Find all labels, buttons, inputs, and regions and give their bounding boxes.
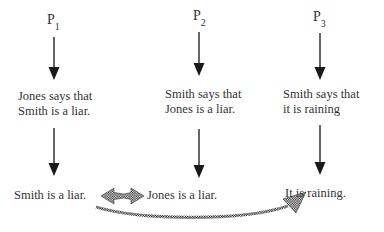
statement-2-line-2: Jones is a liar. (165, 102, 241, 117)
premise-index: 2 (201, 17, 206, 28)
arrow-p3-to-statement (315, 33, 326, 80)
conclusion-3: It is raining. (285, 186, 346, 201)
arrow-statement1-to-conclusion (49, 128, 60, 176)
statement-1: Jones says that Smith is a liar. (18, 89, 92, 119)
statement-3-line-1: Smith says that (283, 87, 359, 102)
premise-letter: P (193, 8, 201, 23)
premise-p1-label: P1 (47, 12, 60, 30)
statement-2: Smith says that Jones is a liar. (165, 87, 241, 117)
premise-index: 3 (321, 18, 326, 29)
arrow-p1-to-statement (49, 37, 60, 80)
premise-p3-label: P3 (313, 9, 326, 27)
premise-letter: P (47, 12, 55, 27)
conclusion-1: Smith is a liar. (14, 188, 86, 203)
premise-letter: P (313, 9, 321, 24)
double-checkered-arrow (101, 188, 144, 204)
arrow-statement3-to-conclusion (315, 125, 326, 175)
statement-3: Smith says that it is raining (283, 87, 359, 117)
arrow-p2-to-statement (194, 32, 205, 76)
arrow-statement2-to-conclusion (194, 129, 205, 178)
statement-2-line-1: Smith says that (165, 87, 241, 102)
statement-3-line-2: it is raining (283, 102, 359, 117)
conclusion-2: Jones is a liar. (147, 188, 217, 203)
statement-1-line-1: Jones says that (18, 89, 92, 104)
premise-index: 1 (55, 21, 60, 32)
premise-p2-label: P2 (193, 8, 206, 26)
statement-1-line-2: Smith is a liar. (18, 104, 92, 119)
